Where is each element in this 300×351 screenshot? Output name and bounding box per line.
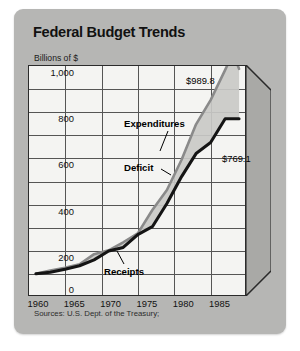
source-note: Sources: U.S. Dept. of the Treasury; xyxy=(34,309,159,318)
data-label-receipts: $769.1 xyxy=(222,153,251,164)
y-axis-label: Billions of $ xyxy=(34,53,78,63)
x-tick-1965: 1965 xyxy=(64,298,85,309)
page-title: Federal Budget Trends xyxy=(33,23,185,41)
x-tick-1960: 1960 xyxy=(28,298,49,309)
chart-card: Federal Budget Trends Billions of $ xyxy=(14,9,286,334)
data-label-expenditures: $989.8 xyxy=(186,75,215,86)
x-tick-1985: 1985 xyxy=(209,298,230,309)
chart-frame: 1,000 800 600 400 200 0 1960 1965 1970 1… xyxy=(28,65,271,296)
leader-line-receipts xyxy=(28,65,271,296)
x-tick-1980: 1980 xyxy=(173,298,194,309)
x-tick-1970: 1970 xyxy=(100,298,121,309)
x-tick-1975: 1975 xyxy=(136,298,157,309)
